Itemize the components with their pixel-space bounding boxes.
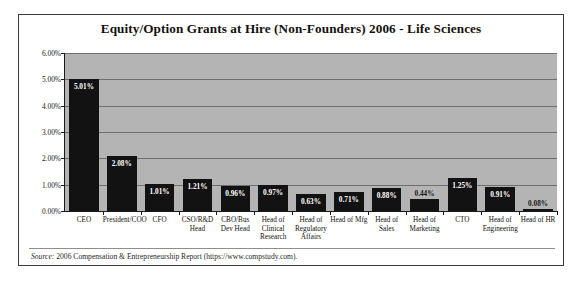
x-category-label: Head of Mfg [330,216,368,225]
bar-value-label: 0.91% [481,190,519,199]
bar-group[interactable]: 0.96% [216,53,254,211]
bar-value-label: 0.88% [368,191,406,200]
x-category-label: Head of HR [519,216,557,225]
x-category-label: CEO [65,216,103,225]
x-category-label: CBO/Bus Dev Head [216,216,254,233]
bar-group[interactable]: 1.01% [141,53,179,211]
x-tick-mark [368,211,369,215]
bar[interactable] [69,79,99,211]
source-note: Source: 2006 Compensation & Entrepreneur… [31,252,297,261]
x-tick-mark [103,211,104,215]
bar-value-label: 1.01% [141,187,179,196]
bar-group[interactable]: 0.88% [368,53,406,211]
bar-group[interactable]: 2.08% [103,53,141,211]
x-tick-mark [141,211,142,215]
bar[interactable] [523,209,553,211]
bar-value-label: 5.01% [65,82,103,91]
y-tick-mark [61,79,65,80]
bar-value-label: 0.97% [254,188,292,197]
y-tick-mark [61,211,65,212]
chart-title: Equity/Option Grants at Hire (Non-Founde… [19,21,563,37]
x-tick-mark [481,211,482,215]
bar-group[interactable]: 0.63% [292,53,330,211]
bar-group[interactable]: 5.01% [65,53,103,211]
x-tick-mark [292,211,293,215]
x-category-label: CTO [443,216,481,225]
x-category-label: CSO/R&D Head [179,216,217,233]
x-axis-line [64,211,557,212]
bar-value-label: 0.71% [330,195,368,204]
y-tick-mark [61,106,65,107]
y-tick-label: 3.00% [42,128,61,137]
bar-value-label: 0.08% [519,199,557,208]
y-axis-labels: 0.00%1.00%2.00%3.00%4.00%5.00%6.00% [19,53,61,211]
y-tick-label: 0.00% [42,207,61,216]
bar-value-label: 2.08% [103,159,141,168]
bar-value-label: 1.21% [179,182,217,191]
x-tick-mark [519,211,520,215]
y-tick-label: 4.00% [42,101,61,110]
bar-value-label: 0.96% [216,189,254,198]
x-category-label: Head of Marketing [406,216,444,233]
bar-group[interactable]: 0.91% [481,53,519,211]
bar[interactable] [410,199,440,211]
y-tick-mark [61,185,65,186]
footer-divider [29,248,555,249]
y-tick-mark [61,132,65,133]
x-tick-mark [557,211,558,215]
bar-group[interactable]: 1.25% [443,53,481,211]
x-category-label: Head of Clinical Research [254,216,292,242]
chart-card: Equity/Option Grants at Hire (Non-Founde… [18,14,564,266]
x-tick-mark [406,211,407,215]
x-tick-mark [330,211,331,215]
x-category-label: Head of Engineering [481,216,519,233]
x-category-label: Head of Regulatory Affairs [292,216,330,242]
y-tick-mark [61,158,65,159]
source-label: Source: [31,252,54,261]
y-tick-label: 2.00% [42,154,61,163]
bar-group[interactable]: 0.08% [519,53,557,211]
x-tick-mark [216,211,217,215]
y-tick-label: 1.00% [42,180,61,189]
bar-value-label: 0.63% [292,197,330,206]
y-tick-label: 6.00% [42,49,61,58]
x-category-label: Head of Sales [368,216,406,233]
x-category-label: CFO [141,216,179,225]
plot-area: 5.01%2.08%1.01%1.21%0.96%0.97%0.63%0.71%… [65,53,557,211]
x-category-label: President/COO [103,216,141,225]
y-tick-label: 5.00% [42,75,61,84]
bar-group[interactable]: 1.21% [179,53,217,211]
x-tick-mark [443,211,444,215]
bar-value-label: 0.44% [406,189,444,198]
y-tick-mark [61,53,65,54]
bar-value-label: 1.25% [443,181,481,190]
x-tick-mark [254,211,255,215]
bar-group[interactable]: 0.44% [406,53,444,211]
x-tick-mark [179,211,180,215]
bar-group[interactable]: 0.71% [330,53,368,211]
source-text: 2006 Compensation & Entrepreneurship Rep… [54,252,297,261]
bar-group[interactable]: 0.97% [254,53,292,211]
